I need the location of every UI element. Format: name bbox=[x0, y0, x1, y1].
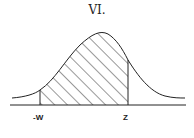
shaded-area bbox=[40, 25, 128, 105]
label-neg-w: -W bbox=[33, 113, 44, 122]
bell-curve-diagram: -W Z bbox=[0, 0, 194, 138]
label-z: Z bbox=[123, 113, 128, 122]
